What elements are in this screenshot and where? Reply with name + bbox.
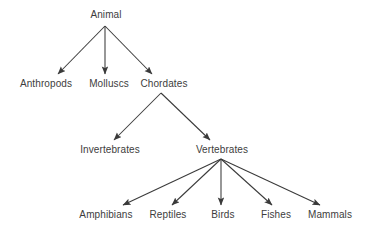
edge-group <box>58 26 320 205</box>
node-animal: Animal <box>90 9 121 21</box>
diagram-edges-layer <box>0 0 369 232</box>
edge-animal-to-chordates <box>105 26 152 74</box>
edge-animal-to-anthropods <box>58 26 105 74</box>
edge-vertebrates-to-amphibians <box>123 159 221 205</box>
edge-vertebrates-to-mammals <box>221 159 320 205</box>
node-vertebrates: Vertebrates <box>196 144 248 156</box>
node-mammals: Mammals <box>308 209 352 221</box>
node-anthropods: Anthropods <box>20 78 72 90</box>
node-fishes: Fishes <box>261 209 291 221</box>
edge-chordates-to-invertebrates <box>114 93 161 140</box>
node-molluscs: Molluscs <box>89 78 129 90</box>
node-amphibians: Amphibians <box>79 209 132 221</box>
animal-classification-diagram: Animal Anthropods Molluscs Chordates Inv… <box>0 0 369 232</box>
edge-vertebrates-to-reptiles <box>172 159 221 205</box>
node-chordates: Chordates <box>140 78 187 90</box>
edge-vertebrates-to-fishes <box>221 159 272 205</box>
node-birds: Birds <box>211 209 234 221</box>
node-invertebrates: Invertebrates <box>80 144 140 156</box>
node-reptiles: Reptiles <box>150 209 187 221</box>
edge-chordates-to-vertebrates <box>161 93 210 140</box>
